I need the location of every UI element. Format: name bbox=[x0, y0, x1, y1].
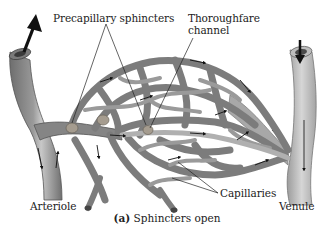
label-precapillary-sphincters: Precapillary sphincters bbox=[53, 12, 174, 24]
vessel-stub bbox=[85, 206, 92, 211]
label-thoroughfare-line2: channel bbox=[188, 24, 229, 36]
label-venule: Venule bbox=[279, 200, 314, 212]
capillary-bed-diagram: Precapillary sphincters Thoroughfare cha… bbox=[0, 0, 334, 236]
flow-arrow-icon bbox=[27, 14, 42, 32]
caption-text: Sphincters open bbox=[130, 212, 220, 224]
label-arteriole: Arteriole bbox=[30, 200, 76, 212]
label-thoroughfare-line1: Thoroughfare bbox=[188, 12, 260, 24]
figure-caption: (a) Sphincters open bbox=[0, 212, 334, 224]
caption-letter: (a) bbox=[114, 212, 131, 224]
label-capillaries: Capillaries bbox=[220, 187, 276, 199]
